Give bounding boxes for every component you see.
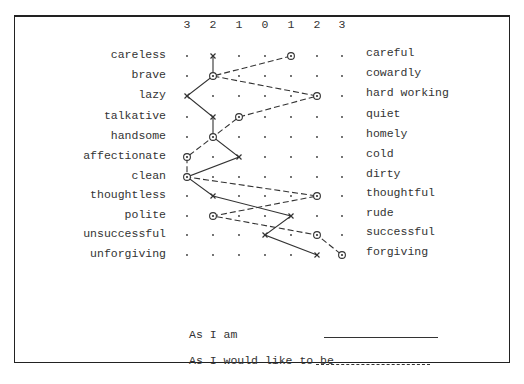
circled-dot-center: [212, 75, 214, 77]
grid-dot: [316, 55, 318, 57]
circled-dot-center: [238, 116, 240, 118]
circled-dot-center: [341, 254, 343, 256]
grid-dot: [341, 176, 343, 178]
circled-dot-center: [290, 55, 292, 57]
grid-dot: [238, 136, 240, 138]
grid-dot: [186, 234, 188, 236]
legend-label-as-i-would-like-to-be: As I would like to be: [189, 354, 334, 367]
grid-dot: [264, 195, 266, 197]
grid-dot: [186, 195, 188, 197]
grid-dot: [290, 136, 292, 138]
grid-dot: [238, 75, 240, 77]
grid-dot: [212, 156, 214, 158]
grid-dot: [212, 176, 214, 178]
grid-dot: [316, 136, 318, 138]
grid-dot: [186, 116, 188, 118]
grid-dot: [264, 95, 266, 97]
grid-dot: [238, 215, 240, 217]
grid-dot: [238, 95, 240, 97]
grid-dot: [316, 75, 318, 77]
grid-dot: [238, 254, 240, 256]
grid-dot: [264, 215, 266, 217]
grid-dot: [186, 75, 188, 77]
grid-dot: [341, 95, 343, 97]
circled-dot-center: [186, 156, 188, 158]
grid-dot: [238, 55, 240, 57]
grid-dot: [264, 55, 266, 57]
grid-dot: [264, 136, 266, 138]
x-marker-icon: [315, 253, 320, 258]
grid-dot: [264, 156, 266, 158]
grid-dot: [212, 254, 214, 256]
grid-dot: [238, 176, 240, 178]
circled-dot-center: [212, 136, 214, 138]
grid-dot: [341, 136, 343, 138]
grid-dot: [341, 234, 343, 236]
grid-dot: [316, 116, 318, 118]
x-marker-icon: [237, 155, 242, 160]
circled-dot-center: [316, 95, 318, 97]
grid-dot: [341, 116, 343, 118]
grid-dot: [238, 195, 240, 197]
circled-dot-center: [212, 215, 214, 217]
grid-dot: [264, 254, 266, 256]
legend-solid-line: [324, 337, 438, 338]
grid-dot: [341, 156, 343, 158]
x-marker-icon: [263, 233, 268, 238]
grid-dot: [290, 116, 292, 118]
grid-dot: [290, 156, 292, 158]
circled-dot-center: [186, 176, 188, 178]
grid-dot: [186, 254, 188, 256]
grid-dot: [264, 116, 266, 118]
grid-dot: [290, 176, 292, 178]
grid-dot: [290, 195, 292, 197]
circled-dot-center: [316, 195, 318, 197]
grid-dot: [186, 136, 188, 138]
grid-dot: [341, 215, 343, 217]
semantic-differential-plot: [0, 0, 524, 384]
grid-dot: [341, 195, 343, 197]
x-marker-icon: [185, 94, 190, 99]
grid-dot: [290, 234, 292, 236]
grid-dot: [290, 75, 292, 77]
actual-self-line: [187, 56, 317, 255]
grid-dot: [290, 254, 292, 256]
grid-dot: [290, 95, 292, 97]
grid-dot: [341, 75, 343, 77]
grid-dot: [316, 215, 318, 217]
grid-dot: [238, 234, 240, 236]
grid-dot: [316, 176, 318, 178]
grid-dot: [264, 176, 266, 178]
circled-dot-center: [316, 234, 318, 236]
grid-dot: [186, 215, 188, 217]
grid-dot: [212, 234, 214, 236]
legend-dashed-line: [316, 364, 430, 365]
legend-label-as-i-am: As I am: [189, 328, 237, 341]
grid-dot: [186, 55, 188, 57]
ideal-self-line: [187, 56, 342, 255]
grid-dot: [341, 55, 343, 57]
grid-dot: [316, 156, 318, 158]
grid-dot: [212, 95, 214, 97]
grid-dot: [264, 75, 266, 77]
